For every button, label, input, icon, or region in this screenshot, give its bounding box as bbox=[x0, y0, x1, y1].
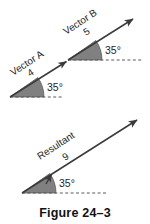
figure-container: 35° Vector A 4 35° Vector B 5 bbox=[0, 0, 150, 224]
figure-caption: Figure 24–3 bbox=[39, 206, 111, 220]
resultant-panel: 35° Resultant 9 bbox=[22, 120, 137, 193]
resultant-magnitude: 9 bbox=[60, 150, 71, 162]
vector-b-angle-label: 35° bbox=[105, 44, 121, 56]
vector-b-magnitude: 5 bbox=[81, 25, 92, 37]
vector-b-label: Vector B bbox=[61, 7, 99, 37]
resultant-label: Resultant bbox=[35, 129, 77, 161]
vector-a-angle-label: 35° bbox=[47, 81, 63, 93]
vector-sum-panel: 35° Vector A 4 35° Vector B 5 bbox=[8, 7, 143, 97]
resultant-angle-label: 35° bbox=[59, 177, 75, 189]
vector-a-magnitude: 4 bbox=[25, 66, 36, 78]
vector-diagram: 35° Vector A 4 35° Vector B 5 bbox=[0, 0, 150, 224]
